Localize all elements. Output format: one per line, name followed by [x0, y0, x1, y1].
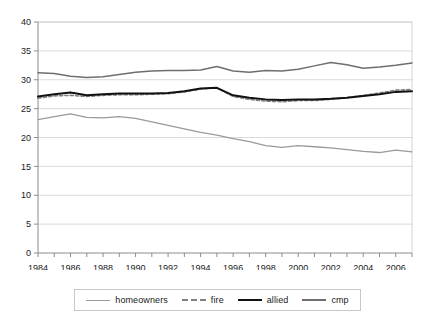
y-axis-tick-labels: 0510152025303540: [21, 17, 31, 258]
series-line-allied: [38, 88, 412, 100]
chart-legend: homeowners fire allied cmp: [74, 289, 361, 311]
x-tick-label: 1992: [158, 263, 178, 270]
x-tick-label: 1990: [126, 263, 146, 270]
x-tick-label: 2004: [353, 263, 373, 270]
x-tick-label: 1986: [61, 263, 81, 270]
y-tick-label: 20: [21, 133, 31, 143]
x-axis-ticks: [38, 253, 412, 257]
y-tick-label: 35: [21, 46, 31, 56]
x-tick-label: 1996: [223, 263, 243, 270]
x-tick-label: 1984: [28, 263, 48, 270]
y-axis-ticks: [34, 22, 38, 253]
x-tick-label: 1998: [256, 263, 276, 270]
x-tick-label: 2006: [386, 263, 406, 270]
x-tick-label: 1988: [93, 263, 113, 270]
x-axis-tick-labels: 1984198619881990199219941996199820002002…: [28, 263, 406, 270]
series-line-homeowners: [38, 114, 412, 153]
legend-item-cmp[interactable]: cmp: [302, 296, 348, 305]
y-tick-label: 5: [26, 219, 31, 229]
gridlines: [38, 22, 412, 224]
x-tick-label: 2002: [321, 263, 341, 270]
series-line-cmp: [38, 62, 412, 77]
y-tick-label: 15: [21, 162, 31, 172]
legend-item-allied[interactable]: allied: [238, 296, 289, 305]
line-chart: 0510152025303540 19841986198819901992199…: [0, 0, 435, 320]
chart-canvas: 0510152025303540 19841986198819901992199…: [0, 0, 435, 270]
legend-item-fire[interactable]: fire: [182, 296, 224, 305]
x-tick-label: 1994: [191, 263, 211, 270]
legend-label-cmp: cmp: [331, 296, 348, 305]
plot-area: 0510152025303540 19841986198819901992199…: [0, 0, 435, 270]
x-tick-label: 2000: [288, 263, 308, 270]
legend-label-homeowners: homeowners: [115, 296, 168, 305]
y-tick-label: 0: [26, 248, 31, 258]
legend-label-allied: allied: [267, 296, 289, 305]
y-tick-label: 40: [21, 17, 31, 27]
legend-item-homeowners[interactable]: homeowners: [86, 296, 168, 305]
legend-label-fire: fire: [211, 296, 224, 305]
data-series: [38, 62, 412, 152]
y-tick-label: 10: [21, 190, 31, 200]
y-tick-label: 30: [21, 75, 31, 85]
y-tick-label: 25: [21, 104, 31, 114]
